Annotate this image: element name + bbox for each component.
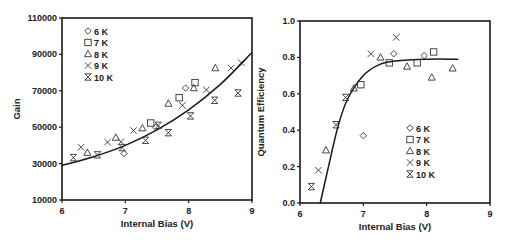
triangle-marker-icon <box>322 147 329 153</box>
x-marker-icon <box>203 87 209 93</box>
square-marker-icon <box>85 39 91 45</box>
square-marker-icon <box>176 95 182 101</box>
x-tick-label: 7 <box>123 206 128 216</box>
x-marker-icon <box>228 65 234 71</box>
asterisk-x-marker-icon <box>70 154 76 160</box>
x-marker-icon <box>179 102 185 108</box>
triangle-marker-icon <box>85 50 92 56</box>
x-tick-label: 9 <box>249 206 254 216</box>
legend-label: 6 K <box>94 27 109 37</box>
x-marker-icon <box>407 159 413 165</box>
triangle-marker-icon <box>449 65 456 71</box>
legend: 6 K7 K8 K9 K10 K <box>85 27 114 83</box>
x-axis-label: Internal Bias (V) <box>359 221 431 232</box>
diamond-marker-icon <box>391 51 397 57</box>
x-marker-icon <box>393 34 399 40</box>
triangle-marker-icon <box>377 54 384 60</box>
square-marker-icon <box>414 60 420 66</box>
y-tick-label: 70000 <box>32 86 57 96</box>
series-10k <box>308 94 349 190</box>
x-axis-label: Internal Bias (V) <box>121 218 193 229</box>
legend-label: 7 K <box>94 38 109 48</box>
y-tick-label: 90000 <box>32 49 57 59</box>
gain-chart: 10000300005000070000900001100006789Inter… <box>11 13 255 229</box>
triangle-marker-icon <box>212 64 219 70</box>
asterisk-x-marker-icon <box>211 97 217 103</box>
y-axis-label: Gain <box>11 98 22 119</box>
y-axis-label: Quantum Efficiency <box>255 67 266 157</box>
x-tick-label: 8 <box>186 206 191 216</box>
triangle-marker-icon <box>407 147 414 153</box>
x-tick-label: 7 <box>361 209 366 219</box>
diamond-marker-icon <box>407 125 413 131</box>
legend-label: 8 K <box>416 147 431 157</box>
fit-curve <box>320 59 458 203</box>
fit-curve <box>62 53 252 166</box>
legend-label: 7 K <box>416 135 431 145</box>
y-tick-label: 0.0 <box>282 198 295 208</box>
legend-label: 10 K <box>94 73 114 83</box>
triangle-marker-icon <box>139 124 146 130</box>
square-marker-icon <box>192 79 198 85</box>
triangle-marker-icon <box>428 74 435 80</box>
asterisk-x-marker-icon <box>85 74 91 80</box>
legend-label: 9 K <box>94 61 109 71</box>
legend-label: 6 K <box>416 124 431 134</box>
y-tick-label: 50000 <box>32 122 57 132</box>
figure: 10000300005000070000900001100006789Inter… <box>0 0 511 245</box>
y-tick-label: 0.6 <box>282 89 295 99</box>
diamond-marker-icon <box>121 150 127 156</box>
y-tick-label: 110000 <box>27 13 57 23</box>
triangle-marker-icon <box>404 63 411 69</box>
asterisk-x-marker-icon <box>187 113 193 119</box>
legend-label: 8 K <box>94 50 109 60</box>
square-marker-icon <box>407 136 413 142</box>
x-tick-label: 9 <box>487 209 492 219</box>
legend-label: 9 K <box>416 158 431 168</box>
x-marker-icon <box>104 139 110 145</box>
x-marker-icon <box>238 59 244 65</box>
y-tick-label: 0.4 <box>282 125 295 135</box>
series-6k <box>121 85 189 157</box>
x-tick-label: 6 <box>59 206 64 216</box>
y-tick-label: 10000 <box>32 195 57 205</box>
legend-label: 10 K <box>416 170 436 180</box>
asterisk-x-marker-icon <box>142 137 148 143</box>
asterisk-x-marker-icon <box>235 90 241 96</box>
triangle-marker-icon <box>190 84 197 90</box>
x-marker-icon <box>315 167 321 173</box>
diamond-marker-icon <box>360 132 366 138</box>
diamond-marker-icon <box>421 52 427 58</box>
legend: 6 K7 K8 K9 K10 K <box>407 124 436 180</box>
y-tick-label: 0.2 <box>282 162 295 172</box>
asterisk-x-marker-icon <box>165 129 171 135</box>
asterisk-x-marker-icon <box>407 171 413 177</box>
x-tick-label: 6 <box>297 209 302 219</box>
triangle-marker-icon <box>84 149 91 155</box>
x-marker-icon <box>78 144 84 150</box>
square-marker-icon <box>430 49 436 55</box>
triangle-marker-icon <box>165 100 172 106</box>
y-tick-label: 0.8 <box>282 52 295 62</box>
square-marker-icon <box>147 120 153 126</box>
x-tick-label: 8 <box>424 209 429 219</box>
x-marker-icon <box>85 62 91 68</box>
series-8k <box>322 54 456 153</box>
x-marker-icon <box>130 127 136 133</box>
plot-frame <box>300 21 490 203</box>
x-marker-icon <box>368 51 374 57</box>
series-10k <box>70 90 241 161</box>
y-tick-label: 30000 <box>32 159 57 169</box>
y-tick-label: 1.0 <box>282 16 295 26</box>
asterisk-x-marker-icon <box>308 183 314 189</box>
diamond-marker-icon <box>85 28 91 34</box>
quantum-efficiency-chart: 0.00.20.40.60.81.06789Internal Bias (V)Q… <box>255 16 493 232</box>
diamond-marker-icon <box>182 85 188 91</box>
